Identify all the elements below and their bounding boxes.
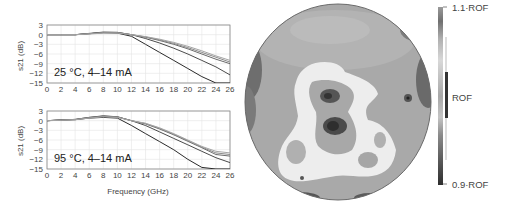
- y-tick-label: −12: [29, 155, 43, 164]
- y-tick-label: −15: [29, 79, 43, 88]
- series-line: [47, 33, 230, 60]
- y-tick-label: −9: [34, 60, 44, 69]
- x-tick-label: 22: [197, 85, 206, 94]
- x-tick-labels: 02468101214161820222426: [45, 171, 235, 180]
- y-tick-label: 3: [39, 107, 44, 116]
- wafer-heatmap: [234, 0, 440, 204]
- y-tick-label: −9: [34, 146, 44, 155]
- colorbar-mid-label: ROF: [452, 92, 472, 103]
- y-tick-label: 0: [39, 31, 44, 40]
- x-tick-label: 24: [211, 171, 220, 180]
- y-axis-label: s21 (dB): [16, 126, 25, 157]
- y-tick-label: 0: [39, 117, 44, 126]
- s21-plot-95c: 30−3−6−9−12−15 02468101214161820222426 s…: [16, 107, 235, 196]
- x-tick-label: 10: [113, 171, 122, 180]
- x-tick-label: 8: [101, 85, 106, 94]
- x-tick-label: 4: [73, 85, 78, 94]
- x-tick-label: 14: [141, 171, 150, 180]
- colorbar-scale: [438, 7, 443, 185]
- x-tick-label: 20: [183, 171, 192, 180]
- x-tick-label: 6: [87, 85, 92, 94]
- s21-plot-25c: 30−3−6−9−12−15 02468101214161820222426 s…: [16, 21, 235, 94]
- x-tick-label: 12: [127, 85, 136, 94]
- y-tick-label: −3: [34, 126, 44, 135]
- colorbar-max-label: 1.1·ROF: [452, 2, 489, 13]
- y-tick-label: −3: [34, 40, 44, 49]
- x-tick-label: 10: [113, 85, 122, 94]
- y-tick-labels: 30−3−6−9−12−15: [29, 107, 43, 174]
- x-tick-label: 12: [127, 171, 136, 180]
- y-tick-label: −6: [34, 50, 44, 59]
- y-tick-labels: 30−3−6−9−12−15: [29, 21, 43, 88]
- condition-annotation: 95 °C, 4–14 mA: [54, 152, 132, 164]
- y-tick-label: −12: [29, 69, 43, 78]
- x-tick-label: 8: [101, 171, 106, 180]
- figure-canvas: 30−3−6−9−12−15 02468101214161820222426 s…: [0, 0, 508, 204]
- x-tick-label: 26: [226, 171, 235, 180]
- y-tick-label: −6: [34, 136, 44, 145]
- x-tick-label: 14: [141, 85, 150, 94]
- x-tick-label: 16: [155, 171, 164, 180]
- x-axis-label: Frequency (GHz): [107, 187, 169, 196]
- y-tick-label: 3: [39, 21, 44, 30]
- x-tick-label: 22: [197, 171, 206, 180]
- condition-annotation: 25 °C, 4–14 mA: [54, 66, 132, 78]
- x-tick-label: 24: [211, 85, 220, 94]
- y-axis-label: s21 (dB): [16, 41, 25, 72]
- colorbar: 1.1·ROF ROF 0.9·ROF: [438, 2, 489, 190]
- x-tick-label: 6: [87, 171, 92, 180]
- x-tick-label: 2: [59, 171, 64, 180]
- x-tick-label: 0: [45, 171, 50, 180]
- x-tick-label: 20: [183, 85, 192, 94]
- x-tick-label: 4: [73, 171, 78, 180]
- x-tick-label: 0: [45, 85, 50, 94]
- x-tick-labels: 02468101214161820222426: [45, 85, 235, 94]
- y-tick-label: −15: [29, 165, 43, 174]
- x-tick-label: 26: [226, 85, 235, 94]
- x-tick-label: 16: [155, 85, 164, 94]
- x-tick-label: 2: [59, 85, 64, 94]
- x-tick-label: 18: [169, 85, 178, 94]
- colorbar-min-label: 0.9·ROF: [452, 179, 489, 190]
- x-tick-label: 18: [169, 171, 178, 180]
- colorbar-range-marker: [445, 72, 448, 118]
